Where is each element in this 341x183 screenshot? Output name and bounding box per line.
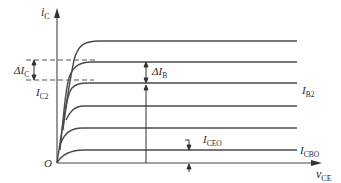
origin-label: O <box>44 157 52 169</box>
output-characteristics-diagram: iC vCE O ΔIC IC2 ΔIB IB2 ICBO <box>0 0 341 183</box>
arrow-down-icon <box>32 75 36 80</box>
curve-3 <box>66 106 297 120</box>
arrow-down-icon <box>144 78 148 83</box>
curve-2 <box>61 128 297 143</box>
delta-ic-arrow <box>32 60 36 80</box>
arrow-up-icon <box>144 62 148 67</box>
axes <box>54 8 322 166</box>
arrow-up-icon <box>144 85 148 90</box>
y-axis-arrow-icon <box>54 8 60 18</box>
iceo-label: ICEO <box>202 133 222 148</box>
ib2-label: IB2 <box>301 84 315 99</box>
delta-ic-label: ΔIC <box>13 64 29 79</box>
iceo-marker <box>185 140 191 172</box>
x-axis-label: vCE <box>316 167 332 183</box>
arrow-up-icon <box>187 164 191 169</box>
characteristic-curves <box>57 41 297 163</box>
curve-1-icbo <box>57 150 297 163</box>
arrow-down-icon <box>187 145 191 150</box>
ic2-label: IC2 <box>35 86 49 101</box>
icbo-label: ICBO <box>299 144 320 159</box>
delta-ib-label: ΔIB <box>151 65 167 80</box>
delta-ic-guides <box>26 60 98 80</box>
curve-6 <box>57 41 297 163</box>
y-axis-label: iC <box>41 5 50 21</box>
x-axis-arrow-icon <box>311 160 322 166</box>
arrow-up-icon <box>32 60 36 65</box>
delta-ib-arrow <box>144 62 148 163</box>
